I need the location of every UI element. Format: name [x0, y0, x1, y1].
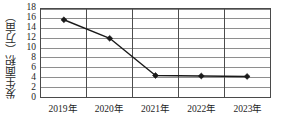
- data-point-marker: [244, 74, 250, 80]
- y-axis-title-label: 发生面积（万亩）: [6, 11, 17, 99]
- y-axis-tick-label: 0: [31, 93, 36, 103]
- data-series-layer: [41, 9, 270, 97]
- y-axis-tick-label: 10: [27, 43, 37, 53]
- x-axis-tick-label: 2020年: [95, 104, 124, 114]
- data-point-marker: [61, 17, 67, 23]
- y-axis-tick-label: 14: [27, 23, 37, 33]
- x-axis-tick-label: 2023年: [233, 104, 262, 114]
- x-axis-tick-label: 2019年: [49, 104, 78, 114]
- y-axis-tick-label: 16: [27, 13, 37, 23]
- y-axis-title: 发生面积（万亩）: [0, 0, 22, 110]
- data-point-marker: [198, 73, 204, 79]
- y-axis-tick-label: 18: [27, 3, 37, 13]
- y-axis-tick-label: 6: [31, 63, 36, 73]
- y-axis-tick-label: 4: [31, 73, 36, 83]
- y-axis-tick-label: 2: [31, 83, 36, 93]
- x-axis-tick-label: 2021年: [141, 104, 170, 114]
- line-chart: 发生面积（万亩） 024681012141618 2019年2020年2021年…: [0, 0, 287, 129]
- x-axis-tick-label: 2022年: [187, 104, 216, 114]
- y-axis-tick-label: 12: [27, 33, 37, 43]
- y-axis-tick-labels: 024681012141618: [20, 8, 38, 98]
- series-line: [64, 20, 247, 77]
- y-axis-tick-label: 8: [31, 53, 36, 63]
- plot-area: [40, 8, 271, 98]
- x-axis-tick-labels: 2019年2020年2021年2022年2023年: [40, 104, 271, 122]
